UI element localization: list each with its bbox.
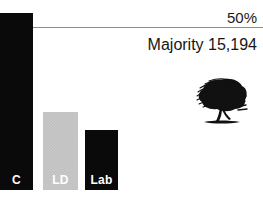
bar-label-ld: LD bbox=[43, 174, 78, 186]
bar-label-lab: Lab bbox=[85, 174, 118, 186]
bar-lab: Lab bbox=[85, 130, 118, 190]
bar-label-c: C bbox=[0, 174, 33, 186]
bar-c: C bbox=[0, 13, 33, 190]
bar-ld: LD bbox=[43, 112, 78, 190]
election-bar-chart: 50% Majority 15,194 bbox=[0, 0, 263, 205]
bars-container: C LD Lab bbox=[0, 0, 263, 205]
